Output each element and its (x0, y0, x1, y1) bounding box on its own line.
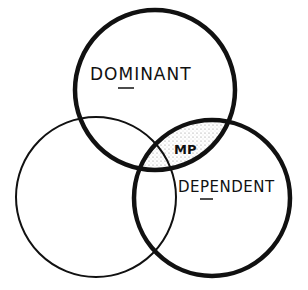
venn-diagram: DOMINANT MP DEPENDENT (0, 0, 308, 290)
mp-label: MP (174, 142, 196, 157)
dependent-label: DEPENDENT (178, 178, 275, 196)
dominant-label: DOMINANT (90, 64, 192, 84)
